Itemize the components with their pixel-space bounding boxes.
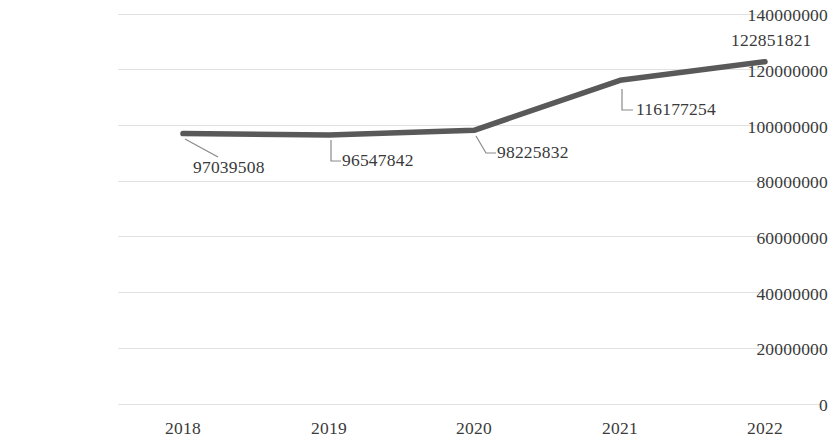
x-tick-label-2018: 2018 (165, 418, 201, 439)
gridlines (118, 14, 820, 404)
leader-line-2018 (185, 139, 218, 157)
data-label-2020: 98225832 (497, 142, 569, 163)
data-label-2019: 96547842 (342, 150, 414, 171)
leader-line-2020 (476, 136, 496, 153)
data-label-2021: 116177254 (636, 99, 716, 120)
x-tick-label-2021: 2021 (602, 418, 638, 439)
y-tick-label-100000000: 100000000 (718, 117, 828, 138)
y-tick-label-40000000: 40000000 (718, 284, 828, 305)
line-chart: 140000000 120000000 100000000 80000000 6… (0, 0, 828, 441)
x-tick-label-2020: 2020 (456, 418, 492, 439)
y-tick-label-0: 0 (718, 395, 828, 416)
x-tick-label-2022: 2022 (747, 418, 783, 439)
y-tick-label-120000000: 120000000 (718, 61, 828, 82)
y-tick-label-60000000: 60000000 (718, 228, 828, 249)
y-tick-label-140000000: 140000000 (718, 5, 828, 26)
x-tick-label-2019: 2019 (311, 418, 347, 439)
data-label-2018: 97039508 (193, 157, 265, 178)
data-label-2022: 122851821 (731, 30, 812, 51)
leader-line-2021 (622, 89, 633, 110)
leader-line-2019 (331, 140, 341, 161)
y-tick-label-20000000: 20000000 (718, 339, 828, 360)
plot-area (0, 0, 828, 441)
y-tick-label-80000000: 80000000 (718, 172, 828, 193)
